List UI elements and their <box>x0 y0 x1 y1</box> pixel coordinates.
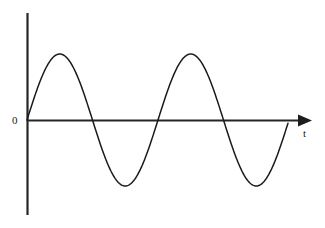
sine-wave-canvas <box>0 0 325 228</box>
sine-wave-figure: 0 t <box>0 0 325 228</box>
x-axis-label: t <box>303 128 306 139</box>
origin-label: 0 <box>12 115 18 126</box>
arrow-right-icon <box>298 115 312 127</box>
